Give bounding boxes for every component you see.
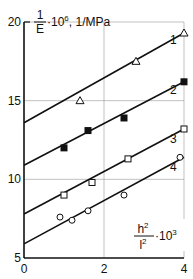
series-label-1: 1: [170, 33, 177, 47]
data-point-series-1: [180, 29, 188, 36]
x-label-num: h: [137, 222, 144, 236]
x-label-den-exp: 2: [142, 237, 147, 246]
data-point-series-2: [181, 78, 188, 85]
data-point-series-4: [177, 154, 183, 160]
data-point-series-2: [121, 114, 128, 121]
y-tick-label: 10: [8, 172, 22, 186]
data-point-series-3: [61, 192, 67, 198]
data-point-series-1: [76, 97, 84, 104]
series-labels: 1234: [170, 33, 177, 174]
series-label-4: 4: [170, 160, 177, 174]
data-point-series-3: [181, 126, 187, 132]
x-label-suffix: ·10: [155, 229, 173, 243]
data-point-series-2: [85, 127, 92, 134]
data-point-series-2: [61, 144, 68, 151]
x-tick-label: 0: [21, 262, 28, 276]
data-point-series-4: [57, 214, 63, 220]
data-point-series-4: [121, 192, 127, 198]
chart: 5101520024 1234 1 E ·106, 1/MPa h2 l2 ·1…: [0, 0, 193, 279]
x-tick-label: 2: [101, 262, 108, 276]
x-tick-label: 4: [181, 262, 188, 276]
y-tick-label: 15: [8, 94, 22, 108]
x-axis-label: h2 l2 ·103: [133, 219, 185, 252]
y-axis-label: 1 E ·106, 1/MPa: [34, 8, 110, 36]
y-label-unit: , 1/MPa: [69, 15, 111, 29]
x-label-num-exp: 2: [144, 221, 149, 230]
series-label-2: 2: [170, 83, 177, 97]
y-label-denominator: E: [36, 22, 44, 36]
y-label-numerator: 1: [37, 8, 44, 22]
series-label-3: 3: [170, 132, 177, 146]
y-label-suffix: ·10: [47, 15, 65, 29]
series-markers: [57, 29, 188, 223]
data-point-series-3: [89, 179, 95, 185]
y-label-rest: ·106, 1/MPa: [47, 14, 110, 29]
data-point-series-3: [125, 156, 131, 162]
data-point-series-4: [69, 217, 75, 223]
y-tick-label: 20: [8, 15, 22, 29]
data-point-series-4: [85, 208, 91, 214]
x-label-exp: 3: [172, 228, 177, 237]
